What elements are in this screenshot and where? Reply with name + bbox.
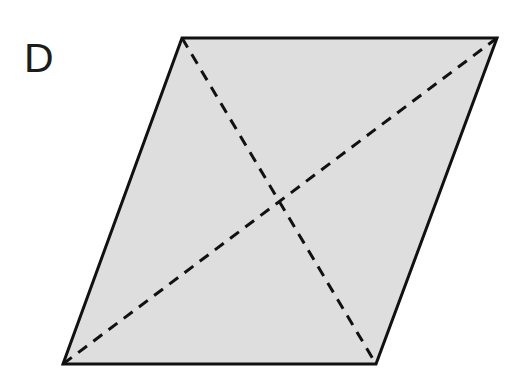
- parallelogram-diagram: D: [0, 0, 519, 376]
- figure-label-d: D: [24, 35, 54, 81]
- figure-canvas: D: [0, 0, 519, 376]
